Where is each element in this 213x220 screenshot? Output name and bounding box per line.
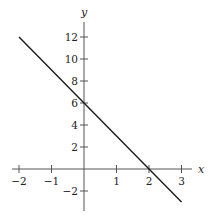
ticks <box>19 37 182 191</box>
y-axis-label: y <box>80 6 88 19</box>
y-tick-label: 4 <box>71 119 78 131</box>
axes <box>12 22 192 211</box>
x-tick-label: 3 <box>178 175 185 187</box>
y-tick-label: 12 <box>65 31 78 43</box>
line-chart: −2−1123−224681012 x y <box>0 0 213 220</box>
x-tick-label: −1 <box>44 175 59 187</box>
y-tick-label: 2 <box>71 141 78 153</box>
y-tick-label: −2 <box>63 185 78 197</box>
x-tick-label: 2 <box>146 175 153 187</box>
y-tick-label: 6 <box>71 97 78 109</box>
y-tick-label: 8 <box>71 75 78 87</box>
y-tick-label: 10 <box>65 53 78 65</box>
x-axis-label: x <box>198 163 205 176</box>
x-tick-label: −2 <box>11 175 26 187</box>
x-tick-label: 1 <box>113 175 120 187</box>
